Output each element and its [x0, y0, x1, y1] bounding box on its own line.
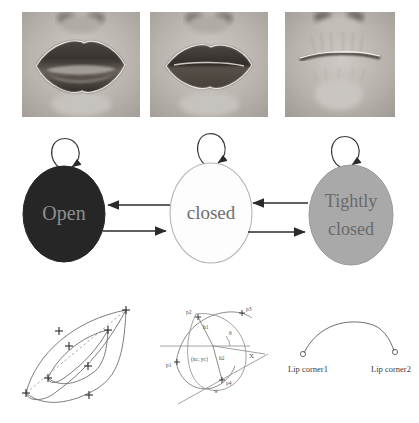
photo-tightly-closed-image [285, 12, 395, 117]
label-h1: h1 [203, 324, 209, 330]
label-p2: p2 [186, 309, 192, 315]
inner-lip-contour-lower [48, 330, 108, 384]
label-p1: p1 [166, 362, 172, 368]
label-center: (xc, yc) [191, 356, 208, 363]
label-p3: p3 [246, 306, 252, 312]
label-p4: p4 [226, 380, 232, 386]
photo-open-image [22, 12, 140, 117]
h1-segment [198, 317, 213, 346]
lip-corner-1-marker [300, 351, 305, 356]
state-open[interactable]: Open [23, 166, 105, 262]
theta-arc [226, 336, 230, 346]
self-loop-open-path [52, 139, 80, 169]
label-lip-corner-1: Lip corner1 [288, 364, 328, 374]
label-h2: h2 [219, 355, 225, 361]
outer-lip-contour-lower [26, 310, 126, 402]
state-open-label: Open [42, 202, 85, 225]
panel-lip-corners: Lip corner1 Lip corner2 [288, 322, 411, 374]
state-tightly-closed-label-line2: closed [328, 219, 374, 239]
panel-parametric-model: p2 p3 p1 p4 h1 h2 (xc, yc) θ X w [160, 306, 268, 404]
self-loop-closed-path [198, 134, 226, 166]
lip-state-figure: Open closed Tightly closed [0, 0, 419, 423]
state-closed[interactable]: closed [170, 163, 252, 263]
panel-contour-model [22, 306, 130, 402]
rotated-axis-x [213, 346, 265, 354]
lip-state-machine: Open closed Tightly closed [0, 125, 419, 290]
self-loop-tightly-closed-path [332, 137, 360, 168]
lip-corner-arc [304, 322, 394, 353]
major-axis-dashed [26, 310, 126, 393]
outer-lip-contour [26, 310, 126, 400]
label-x-axis: X [249, 352, 254, 360]
geometry-canvas: p2 p3 p1 p4 h1 h2 (xc, yc) θ X w Lip cor… [0, 292, 419, 423]
state-closed-label: closed [187, 202, 236, 223]
parametric-landmarks [174, 310, 245, 383]
photo-tightly-closed [285, 12, 395, 117]
photo-open [22, 12, 140, 117]
inner-lip-contour [48, 330, 108, 383]
landmark-markers [22, 306, 130, 399]
h2-segment [213, 346, 222, 380]
label-theta: θ [229, 330, 232, 336]
photo-closed [150, 12, 268, 117]
label-w: w [214, 388, 218, 394]
state-tightly-closed[interactable]: Tightly closed [309, 165, 393, 265]
photo-closed-image [150, 12, 268, 117]
lip-corner-2-marker [392, 349, 397, 354]
label-lip-corner-2: Lip corner2 [371, 364, 411, 374]
state-machine-canvas: Open closed Tightly closed [0, 125, 419, 290]
state-tightly-closed-label-line1: Tightly [325, 191, 377, 211]
lip-geometry-models: p2 p3 p1 p4 h1 h2 (xc, yc) θ X w Lip cor… [0, 292, 419, 423]
